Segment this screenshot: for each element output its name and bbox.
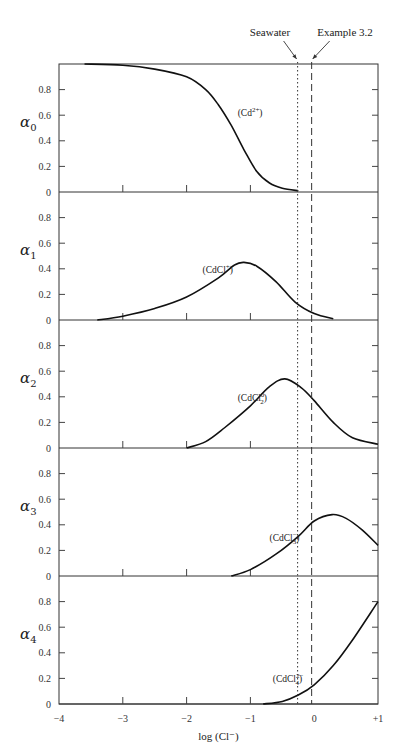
- species-label: (Cd2+): [238, 106, 263, 119]
- arrowhead-icon: [292, 54, 296, 59]
- y-tick-label: 0.6: [39, 494, 52, 505]
- x-axis: −4−3−2−10+1log (Cl⁻): [54, 713, 384, 743]
- y-tick-label: 0.2: [39, 289, 52, 300]
- plot-frame: [59, 64, 378, 704]
- species-label: (CdCl2−4): [273, 672, 304, 687]
- x-tick-label: −2: [181, 713, 192, 724]
- y-tick-label: 0.2: [39, 545, 52, 556]
- y-axis-label: α0: [20, 113, 37, 133]
- x-tick-label: −4: [54, 713, 65, 724]
- y-axis-label: α3: [20, 497, 37, 517]
- y-tick-label: 0.2: [39, 161, 52, 172]
- y-tick-label: 0: [46, 443, 51, 454]
- curve-alpha-0: [85, 64, 299, 191]
- y-tick-label: 0.2: [39, 417, 52, 428]
- y-tick-label: 0: [46, 571, 51, 582]
- panel-alpha-2: 00.20.40.60.8α2(CdCl02): [20, 340, 378, 453]
- y-tick-label: 0.4: [39, 135, 52, 146]
- y-tick-label: 0.6: [39, 238, 52, 249]
- x-axis-title: log (Cl⁻): [198, 730, 239, 743]
- y-tick-label: 0.4: [39, 519, 52, 530]
- y-tick-label: 0.6: [39, 366, 52, 377]
- reference-lines: SeawaterExample 3.2: [250, 26, 373, 704]
- speciation-chart: 00.20.40.60.8α0(Cd2+)00.20.40.60.8α1(CdC…: [0, 0, 404, 752]
- panel-alpha-3: 00.20.40.60.8α3(CdCl−3): [20, 468, 378, 581]
- panel-alpha-1: 00.20.40.60.8α1(CdCl+): [20, 212, 378, 325]
- y-tick-label: 0.4: [39, 647, 52, 658]
- y-tick-label: 0.4: [39, 263, 52, 274]
- reference-label: Seawater: [250, 26, 291, 38]
- x-tick-label: −3: [117, 713, 128, 724]
- y-tick-label: 0.6: [39, 622, 52, 633]
- curve-alpha-2: [187, 379, 378, 448]
- y-axis-label: α2: [20, 369, 37, 389]
- species-label: (CdCl−3): [270, 531, 300, 546]
- reference-label: Example 3.2: [317, 26, 373, 38]
- y-axis-label: α1: [20, 241, 37, 261]
- y-tick-label: 0.8: [39, 340, 52, 351]
- y-tick-label: 0.8: [39, 596, 52, 607]
- panel-alpha-4: 00.20.40.60.8α4(CdCl2−4): [20, 596, 378, 709]
- species-label: (CdCl+): [203, 263, 233, 276]
- y-tick-label: 0.2: [39, 673, 52, 684]
- x-tick-label: 0: [312, 713, 317, 724]
- curve-alpha-4: [263, 602, 378, 704]
- panel-alpha-0: 00.20.40.60.8α0(Cd2+): [20, 64, 378, 198]
- x-tick-label: +1: [373, 713, 384, 724]
- y-tick-label: 0.8: [39, 84, 52, 95]
- y-tick-label: 0: [46, 187, 51, 198]
- x-tick-label: −1: [245, 713, 256, 724]
- curve-alpha-3: [231, 515, 378, 576]
- y-tick-label: 0.4: [39, 391, 52, 402]
- y-tick-label: 0.6: [39, 110, 52, 121]
- y-tick-label: 0.8: [39, 212, 52, 223]
- y-axis-label: α4: [20, 625, 37, 645]
- y-tick-label: 0: [46, 699, 51, 710]
- y-tick-label: 0.8: [39, 468, 52, 479]
- panels-group: 00.20.40.60.8α0(Cd2+)00.20.40.60.8α1(CdC…: [20, 64, 378, 710]
- y-tick-label: 0: [46, 315, 51, 326]
